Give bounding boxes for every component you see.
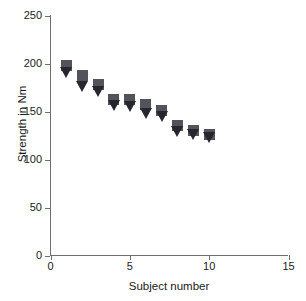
data-point-triangle bbox=[92, 86, 104, 97]
data-point-triangle bbox=[203, 132, 215, 143]
data-point-triangle bbox=[108, 100, 120, 111]
data-point-triangle bbox=[76, 81, 88, 92]
data-point-triangle bbox=[171, 126, 183, 137]
data-point-triangle bbox=[140, 108, 152, 119]
data-point-square bbox=[77, 70, 88, 81]
data-point-triangle bbox=[156, 111, 168, 122]
scatter-chart: 050100150200250 051015 Strength in Nm Su… bbox=[0, 0, 306, 301]
data-point-triangle bbox=[187, 129, 199, 140]
plot-area bbox=[0, 0, 306, 301]
data-point-triangle bbox=[60, 67, 72, 78]
data-point-triangle bbox=[124, 101, 136, 112]
